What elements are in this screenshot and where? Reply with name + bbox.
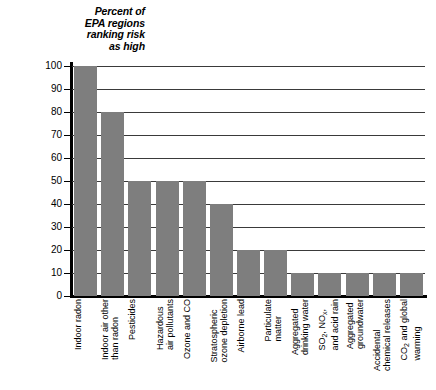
bar [183,181,206,296]
y-axis-tick [64,296,70,297]
bar-series [72,66,425,296]
x-axis-label: Indoor air otherthan radon [100,299,123,360]
bar [210,204,233,296]
y-axis-tick-label: 100 [36,61,62,71]
y-axis-tick [64,181,70,182]
y-axis-tick-label: 80 [36,107,62,117]
bar [264,250,287,296]
x-axis-label: Aggregatedgroundwater [345,299,368,349]
y-axis-tick-label: 40 [36,199,62,209]
y-axis-tick-label: 30 [36,222,62,232]
x-axis-label: Hazardousair pollutants [155,299,178,350]
y-axis-tick [64,158,70,159]
y-axis-tick [64,204,70,205]
bar [291,273,314,296]
bar [74,66,97,296]
y-axis-tick-label: 0 [36,291,62,301]
bar [156,181,179,296]
x-axis-labels: Indoor radonIndoor air otherthan radonPe… [72,299,425,390]
bar [346,273,369,296]
chart-title: Percent of EPA regions ranking risk as h… [10,6,145,52]
bar [128,181,151,296]
x-axis-label: Indoor radon [73,299,96,350]
y-axis-tick-label: 10 [36,268,62,278]
y-axis-tick [64,66,70,67]
y-axis-tick-label: 60 [36,153,62,163]
y-axis-tick [64,112,70,113]
bar [101,112,124,296]
y-axis-tick [64,135,70,136]
x-axis-label: Airborne lead [236,299,259,353]
x-axis-label: Ozone and CO [182,299,205,359]
x-axis-label: Aggregateddrinking water [290,299,313,355]
x-axis-label: Particulatematter [263,299,286,342]
x-axis-label: Pesticides [127,299,150,340]
y-axis-tick-label: 90 [36,84,62,94]
bar [318,273,341,296]
x-axis-label: CO2 and globalwarming [399,299,422,360]
y-axis-tick [64,227,70,228]
y-axis-tick-label: 20 [36,245,62,255]
chart-container: Percent of EPA regions ranking risk as h… [0,0,436,390]
x-axis-label: Stratosphericozone depletion [209,299,232,363]
y-axis-tick-label: 50 [36,176,62,186]
y-axis-tick [64,89,70,90]
y-axis-tick-label: 70 [36,130,62,140]
bar [373,273,396,296]
y-axis-tick [64,250,70,251]
bar [400,273,423,296]
y-axis-tick [64,273,70,274]
x-axis-label: Accidentalchemical releases [372,299,395,371]
x-axis-label: SO2, NOx,and acid rain [317,299,340,351]
bar [237,250,260,296]
